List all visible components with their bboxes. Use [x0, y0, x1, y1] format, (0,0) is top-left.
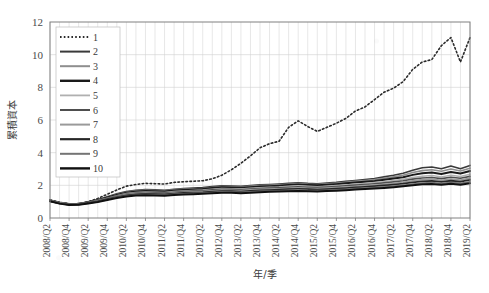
legend-label-8: 8: [93, 134, 98, 145]
x-tick-label: 2015/Q2: [309, 224, 319, 258]
x-axis-tick-labels: 2008/Q22008/Q42009/Q22009/Q42010/Q22010/…: [42, 218, 472, 257]
x-tick-label: 2014/Q4: [290, 224, 300, 258]
y-axis-title: 累積資本: [6, 100, 18, 140]
x-axis-title: 年/季: [253, 268, 276, 280]
y-tick-label: 12: [32, 16, 43, 28]
x-tick-label: 2019/Q2: [462, 224, 472, 258]
x-tick-label: 2011/Q2: [157, 224, 167, 257]
legend-label-4: 4: [93, 75, 98, 86]
y-axis-tick-labels: 024681012: [32, 16, 44, 224]
y-tick-label: 6: [38, 114, 44, 126]
legend-label-9: 9: [93, 148, 98, 159]
y-tick-label: 2: [38, 179, 44, 191]
legend: 12345678910: [56, 27, 120, 177]
legend-label-10: 10: [93, 163, 103, 174]
chart-container: 024681012 2008/Q22008/Q42009/Q22009/Q420…: [0, 0, 489, 293]
legend-label-2: 2: [93, 46, 98, 57]
y-tick-label: 10: [32, 49, 44, 61]
x-tick-label: 2010/Q4: [137, 224, 147, 258]
y-tick-label: 0: [38, 212, 44, 224]
x-tick-label: 2012/Q2: [195, 224, 205, 258]
x-tick-label: 2016/Q4: [367, 224, 377, 258]
y-tick-label: 4: [38, 147, 44, 159]
x-tick-label: 2012/Q4: [214, 224, 224, 258]
legend-label-3: 3: [93, 61, 98, 72]
legend-label-5: 5: [93, 90, 98, 101]
x-tick-label: 2014/Q2: [271, 224, 281, 258]
x-tick-label: 2010/Q2: [118, 224, 128, 258]
x-tick-label: 2011/Q4: [176, 224, 186, 257]
x-tick-label: 2018/Q4: [443, 224, 453, 258]
x-tick-label: 2008/Q2: [42, 224, 52, 258]
x-tick-label: 2015/Q4: [328, 224, 338, 258]
x-tick-label: 2018/Q2: [424, 224, 434, 258]
x-tick-label: 2013/Q4: [252, 224, 262, 258]
y-tick-label: 8: [38, 81, 44, 93]
x-tick-label: 2016/Q2: [347, 224, 357, 258]
x-tick-label: 2013/Q2: [233, 224, 243, 258]
legend-label-1: 1: [93, 32, 98, 43]
line-chart: 024681012 2008/Q22008/Q42009/Q22009/Q420…: [0, 0, 489, 293]
x-tick-label: 2009/Q4: [99, 224, 109, 258]
legend-label-7: 7: [93, 119, 98, 130]
x-tick-label: 2017/Q2: [386, 224, 396, 258]
x-tick-label: 2009/Q2: [80, 224, 90, 258]
legend-label-6: 6: [93, 105, 98, 116]
x-tick-label: 2017/Q4: [405, 224, 415, 258]
x-tick-label: 2008/Q4: [61, 224, 71, 258]
